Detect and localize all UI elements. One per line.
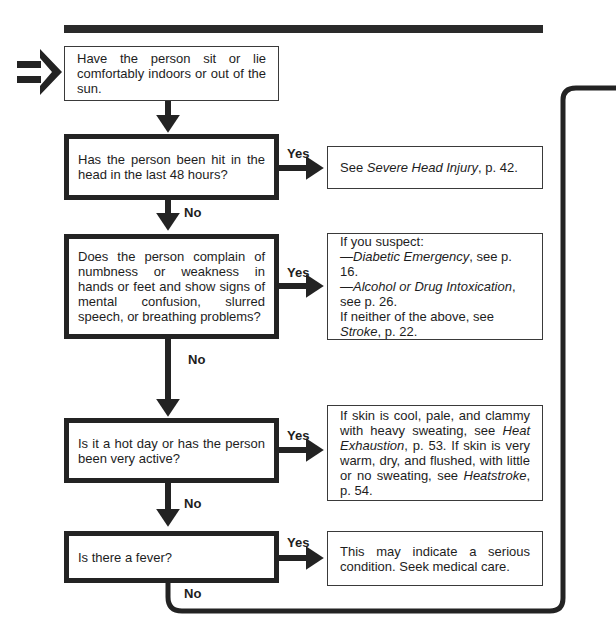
result-link-text: Severe Head Injury — [367, 160, 478, 175]
no-label: No — [184, 496, 201, 511]
result-line: —Diabetic Emergency, see p. 16. — [340, 249, 530, 279]
yes-label: Yes — [287, 265, 309, 280]
result-link-text: Alcohol or Drug Intoxication — [353, 279, 512, 294]
result-text-part: If neither of the above, see — [340, 309, 494, 324]
question-box-numbness: Does the person complain of numbness or … — [64, 234, 279, 339]
result-link-text: Diabetic Emergency — [353, 249, 469, 264]
result-text-part: If skin is cool, pale, and clammy with h… — [340, 408, 530, 438]
start-text: Have the person sit or lie comfortably i… — [77, 51, 266, 96]
no-label: No — [184, 586, 201, 601]
yes-label: Yes — [287, 535, 309, 550]
result-line: If neither of the above, see Stroke, p. … — [340, 309, 530, 339]
no-label: No — [188, 352, 205, 367]
yes-label: Yes — [287, 428, 309, 443]
result-text: If skin is cool, pale, and clammy with h… — [340, 408, 530, 498]
result-line: If you suspect: — [340, 234, 530, 249]
result-text-part: , p. 22. — [378, 324, 418, 339]
result-line: —Alcohol or Drug Intoxication, see p. 26… — [340, 279, 530, 309]
result-box-head-injury: See Severe Head Injury, p. 42. — [327, 146, 543, 189]
result-link-text: Stroke — [340, 324, 378, 339]
result-text-part: , p. 42. — [478, 160, 518, 175]
dash: — — [340, 279, 353, 294]
question-text: Has the person been hit in the head in t… — [78, 152, 265, 182]
question-text: Is it a hot day or has the person been v… — [78, 436, 265, 466]
question-text: Does the person complain of numbness or … — [78, 249, 265, 324]
no-label: No — [184, 205, 201, 220]
question-box-fever: Is there a fever? — [64, 531, 279, 583]
question-text: Is there a fever? — [78, 550, 265, 565]
start-box: Have the person sit or lie comfortably i… — [64, 46, 279, 101]
question-box-head-injury: Has the person been hit in the head in t… — [64, 134, 279, 200]
dash: — — [340, 249, 353, 264]
question-box-hot-day: Is it a hot day or has the person been v… — [64, 418, 279, 483]
double-arrow-right-icon — [17, 49, 62, 95]
result-text: This may indicate a serious condition. S… — [340, 544, 530, 574]
result-text-part: See — [340, 160, 367, 175]
result-box-heat: If skin is cool, pale, and clammy with h… — [327, 405, 543, 501]
result-link-text: Heatstroke — [464, 468, 527, 483]
result-box-fever: This may indicate a serious condition. S… — [327, 531, 543, 586]
result-text: If you suspect: —Diabetic Emergency, see… — [340, 234, 530, 339]
yes-label: Yes — [287, 146, 309, 161]
result-text: See Severe Head Injury, p. 42. — [340, 160, 530, 175]
result-box-numbness: If you suspect: —Diabetic Emergency, see… — [327, 233, 543, 340]
